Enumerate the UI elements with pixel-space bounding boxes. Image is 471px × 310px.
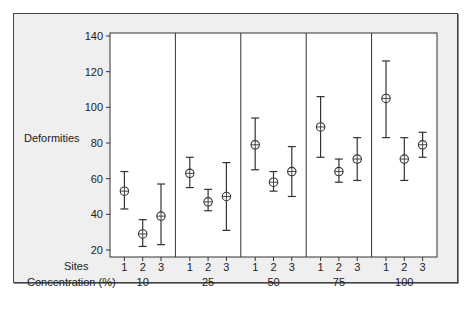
- site-label: 3: [158, 261, 164, 273]
- y-tick-label: 20: [91, 244, 103, 256]
- site-label: 2: [401, 261, 407, 273]
- concentration-label: 10: [137, 276, 149, 288]
- plot-panels: 12310123251235012375123100: [110, 33, 437, 288]
- site-label: 3: [289, 261, 295, 273]
- y-tick-label: 100: [85, 101, 103, 113]
- y-tick-label: 120: [85, 66, 103, 78]
- interval-plot: Deformities Sites Concentration (%) 2040…: [0, 0, 471, 310]
- site-label: 1: [383, 261, 389, 273]
- site-label: 2: [140, 261, 146, 273]
- concentration-label: 25: [202, 276, 214, 288]
- y-tick-label: 60: [91, 173, 103, 185]
- site-label: 2: [336, 261, 342, 273]
- site-label: 3: [354, 261, 360, 273]
- y-axis-label: Deformities: [24, 132, 80, 144]
- y-axis: 20406080100120140: [85, 30, 110, 256]
- y-tick-label: 40: [91, 208, 103, 220]
- sites-row-label: Sites: [64, 260, 89, 272]
- plot-area: [110, 33, 437, 257]
- y-tick-label: 80: [91, 137, 103, 149]
- concentration-label: 50: [267, 276, 279, 288]
- site-label: 2: [205, 261, 211, 273]
- site-label: 2: [270, 261, 276, 273]
- site-label: 1: [252, 261, 258, 273]
- site-label: 3: [223, 261, 229, 273]
- site-label: 1: [187, 261, 193, 273]
- site-label: 3: [420, 261, 426, 273]
- concentration-row-label: Concentration (%): [27, 276, 116, 288]
- y-tick-label: 140: [85, 30, 103, 42]
- site-label: 1: [318, 261, 324, 273]
- site-label: 1: [121, 261, 127, 273]
- concentration-label: 75: [333, 276, 345, 288]
- concentration-label: 100: [395, 276, 413, 288]
